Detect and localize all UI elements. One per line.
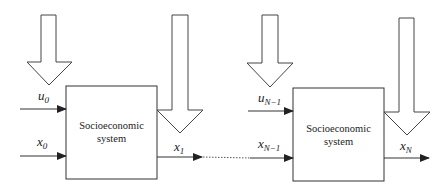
stage-1: Socioeconomic system u0 x0 x1 [20,15,203,179]
system-box-label-line2: system [97,133,126,144]
output-hollow-arrow-icon [384,18,430,135]
state-output-label: x1 [173,139,184,156]
control-input-label: u0 [38,88,50,105]
control-input-hollow-arrow-icon [27,15,72,85]
state-input-label: xN−1 [257,136,280,153]
system-box-label-line1: Socioeconomic [79,120,144,131]
control-input-hollow-arrow-icon [247,15,293,87]
state-input-label: x0 [36,134,48,151]
multistage-process-diagram: Socioeconomic system u0 x0 x1 Socioecono… [0,0,447,191]
control-input-label: uN−1 [258,90,281,107]
system-box-label-line2: system [324,136,353,147]
output-hollow-arrow-icon [157,15,203,133]
stage-n: Socioeconomic system uN−1 xN−1 xN [247,15,430,181]
stage-continuation-dotted-line [203,157,250,158]
system-box [293,88,384,181]
state-output-label: xN [399,138,413,155]
system-box-label-line1: Socioeconomic [306,123,371,134]
